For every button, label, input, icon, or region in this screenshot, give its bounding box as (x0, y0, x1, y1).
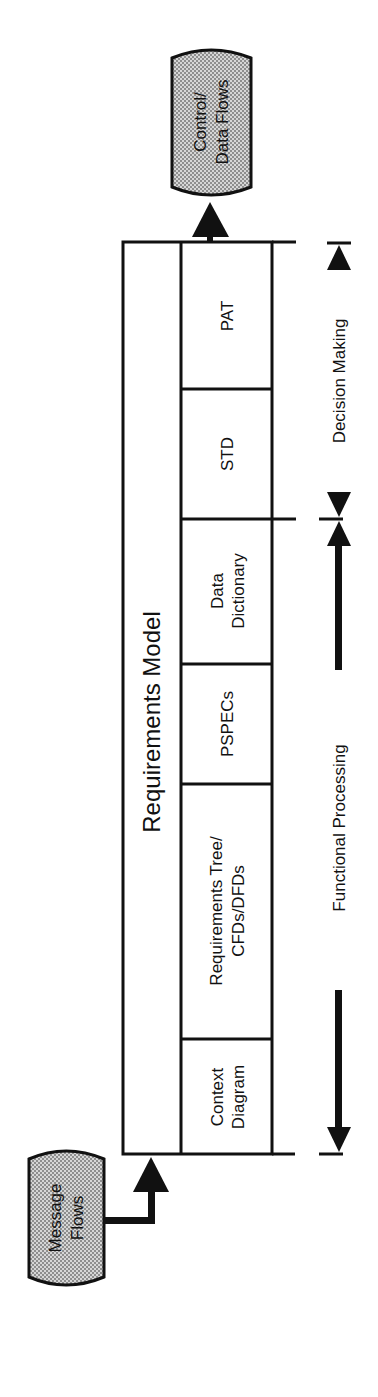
message-flows-terminator: Message Flows (29, 1151, 104, 1285)
cell-data-dictionary-line2: Dictionary (229, 553, 248, 629)
message-flows-line2: Flows (68, 1196, 87, 1240)
control-data-flows-terminator: Control/ Data Flows (172, 50, 251, 195)
range-functional-processing-label: Functional Processing (330, 744, 349, 911)
cell-context-diagram-line1: Context (208, 1067, 227, 1126)
diagram-title: Requirements Model (138, 611, 165, 832)
cell-std: STD (218, 437, 237, 471)
cell-data-dictionary-line1: Data (208, 573, 227, 609)
message-flows-line1: Message (46, 1184, 65, 1253)
range-functional-processing: Functional Processing (319, 521, 351, 1154)
control-data-flows-line2: Data Flows (213, 79, 232, 164)
arrow-down-icon (327, 1127, 351, 1152)
requirements-model-box: Requirements Model PAT STD Data Dictiona… (123, 242, 296, 1154)
cell-pat: PAT (218, 301, 237, 332)
cell-requirements-tree-line2: CFDs/DFDs (229, 865, 248, 957)
cell-requirements-tree-line1: Requirements Tree/ (207, 836, 226, 986)
cell-std-label: STD (218, 437, 237, 471)
control-data-flows-line1: Control/ (191, 92, 210, 152)
arrow-down-icon (327, 492, 351, 517)
cell-context-diagram-line2: Diagram (229, 1065, 248, 1129)
arrow-up-icon (327, 521, 351, 546)
range-decision-making: Decision Making (327, 243, 351, 517)
range-decision-making-label: Decision Making (330, 319, 349, 444)
input-arrow (104, 1157, 169, 1224)
output-arrow (192, 202, 229, 243)
requirements-model-diagram: Control/ Data Flows Requirements Model P… (0, 0, 378, 1397)
cell-pspecs-label: PSPECs (218, 691, 237, 757)
cell-pat-label: PAT (218, 301, 237, 332)
cell-pspecs: PSPECs (218, 691, 237, 757)
arrow-up-icon (327, 245, 351, 270)
